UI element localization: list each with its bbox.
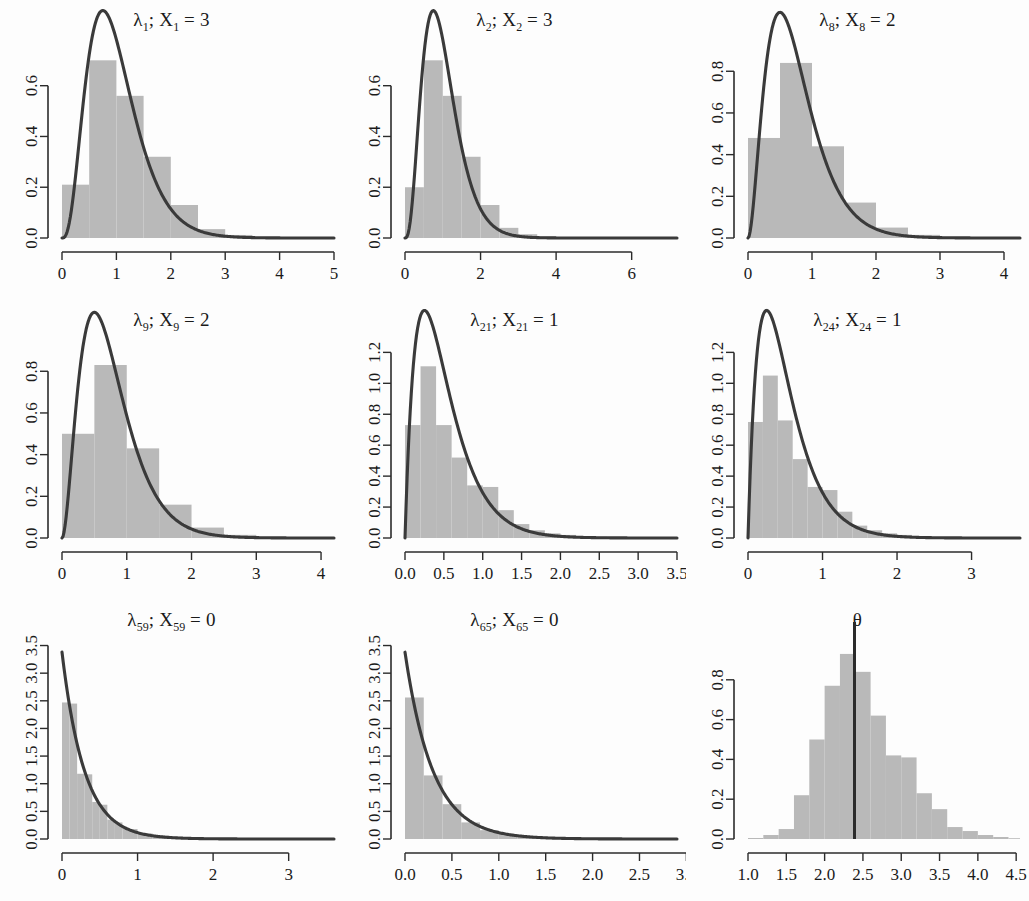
y-tick-label: 0.8 [365,404,384,425]
y-tick-label: 0.6 [22,402,41,423]
y-tick-label: 0.2 [365,496,384,517]
plot-panel: λ1; X1 = 3 0123450.00.20.40.6 [0,0,343,300]
y-tick-label: 1.2 [708,342,727,363]
x-tick-label: 3.5 [929,865,950,884]
histogram-bars [748,376,972,538]
x-tick-label: 1.5 [535,865,556,884]
histogram-bar [467,485,483,538]
y-tick-label: 0.0 [22,227,41,248]
plot-panel: λ59; X59 = 0 01230.00.51.01.52.02.53.03.… [0,600,343,901]
plot-panel: λ24; X24 = 1 01230.00.20.40.60.81.01.2 [686,300,1029,600]
x-tick-label: 0 [58,564,67,583]
histogram-bar [978,835,993,839]
x-tick-label: 1.5 [776,865,797,884]
histogram-bar [443,96,462,238]
x-tick-label: 2 [872,264,881,283]
histogram-bar [763,376,778,538]
y-tick-label: 0.4 [22,125,41,147]
plot-area: 0123450.00.20.40.6 [0,0,343,300]
x-tick-label: 2.5 [589,564,610,583]
y-tick-label: 0.6 [22,75,41,96]
plot-area: 012340.00.20.40.60.8 [686,0,1029,300]
x-tick-label: 3 [284,865,293,884]
y-tick-label: 0.0 [22,527,41,548]
histogram-bar [443,804,462,839]
histogram-bar [809,740,824,840]
x-tick-label: 2 [167,264,176,283]
y-tick-label: 0.2 [708,496,727,517]
y-tick-label: 0.0 [708,527,727,548]
histogram-bars [62,702,251,839]
histogram-bar [763,835,778,839]
y-tick-label: 0.6 [365,435,384,456]
histogram-bar [855,672,870,839]
y-tick-label: 1.5 [22,745,41,766]
y-tick-label: 0.6 [708,102,727,123]
y-tick-label: 1.5 [365,745,384,766]
histogram-bar [92,802,100,839]
plot-area: 1.01.52.02.53.03.54.04.50.00.20.40.60.8 [686,600,1029,901]
x-tick-label: 3.0 [676,865,686,884]
y-tick-label: 0.0 [708,227,727,248]
plot-area: 02460.00.20.40.6 [343,0,686,300]
plot-area: 012340.00.20.40.60.8 [0,300,343,600]
histogram-bars [405,697,611,839]
histogram-bar [808,487,823,538]
x-tick-label: 0.0 [394,865,415,884]
y-tick-label: 3.0 [365,663,384,684]
x-tick-label: 1 [112,264,121,283]
x-tick-label: 0 [401,264,410,283]
x-tick-label: 2.0 [814,865,835,884]
histogram-bars [62,60,307,238]
histogram-bar [144,157,171,238]
y-tick-label: 0.4 [22,444,41,466]
x-tick-label: 0 [744,264,753,283]
histogram-bar [963,831,978,839]
y-tick-label: 0.8 [708,669,727,690]
y-tick-label: 1.0 [365,373,384,394]
histogram-bars [748,63,1004,238]
density-curve [62,652,334,839]
y-tick-label: 2.5 [22,690,41,711]
histogram-bar [462,157,481,238]
x-tick-label: 3 [967,564,976,583]
y-tick-label: 0.2 [365,177,384,198]
histogram-bar [794,795,809,839]
y-tick-label: 0.4 [365,465,384,487]
histogram-bars [748,654,1020,839]
histogram-bar [993,837,1008,839]
y-tick-label: 3.0 [22,663,41,684]
x-tick-label: 0 [58,865,67,884]
histogram-bar [62,702,70,839]
histogram-bar [89,60,116,238]
x-tick-label: 4 [275,264,284,283]
y-tick-label: 0.2 [708,789,727,810]
y-tick-label: 1.2 [365,342,384,363]
x-tick-label: 2 [187,564,196,583]
y-tick-label: 0.2 [22,177,41,198]
y-tick-label: 0.0 [365,227,384,248]
x-tick-label: 2.5 [852,865,873,884]
x-tick-label: 3.5 [666,564,686,583]
x-tick-label: 0 [58,264,67,283]
histogram-bar [421,366,437,538]
x-tick-label: 3.0 [891,865,912,884]
y-tick-label: 0.5 [365,801,384,822]
histogram-bar [871,716,886,839]
x-tick-label: 2.0 [582,865,603,884]
histogram-bars [405,366,638,538]
x-tick-label: 2.5 [629,865,650,884]
histogram-bar [405,697,424,839]
y-tick-label: 1.0 [365,773,384,794]
x-tick-label: 3 [221,264,230,283]
plot-area: 01230.00.51.01.52.02.53.03.5 [0,600,343,901]
x-tick-label: 4 [552,264,561,283]
histogram-bar [947,827,962,839]
histogram-bar [793,459,808,538]
x-tick-label: 1 [133,865,142,884]
x-tick-label: 0.5 [441,865,462,884]
x-tick-label: 4 [1000,264,1009,283]
y-tick-label: 0.6 [708,435,727,456]
histogram-bar [1009,838,1020,839]
y-tick-label: 0.4 [708,465,727,487]
